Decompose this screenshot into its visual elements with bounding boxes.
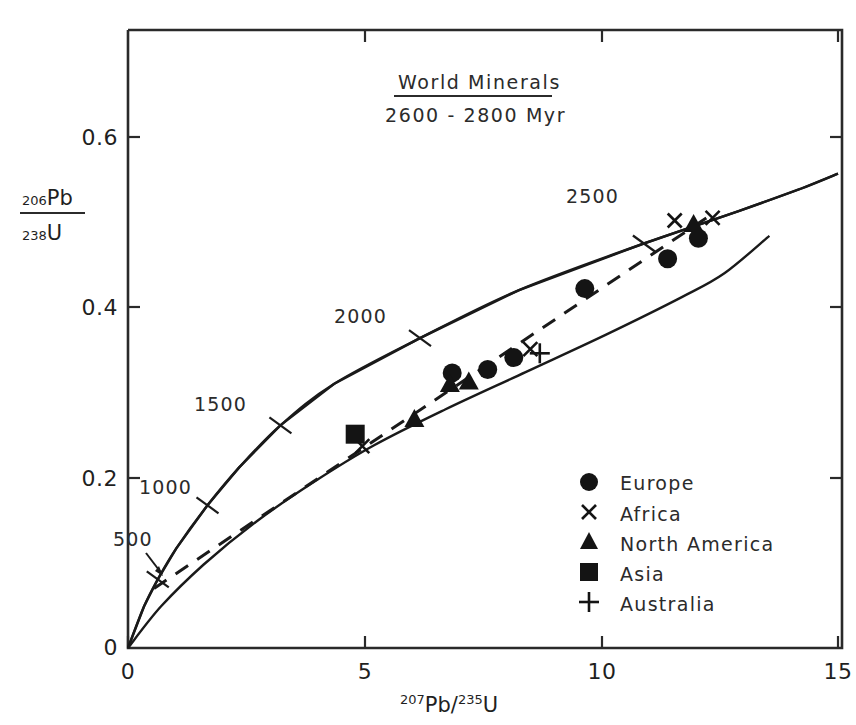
- data-point: [658, 249, 677, 268]
- y-tick-label-0: 0: [104, 635, 119, 660]
- y-tick-label-0p2: 0.2: [82, 466, 119, 491]
- age-label-500: 500: [113, 528, 153, 550]
- legend-label-europe: Europe: [620, 472, 695, 494]
- y-axis-denominator-superscript: 238: [22, 228, 47, 243]
- series-asia-markers: [346, 425, 365, 444]
- data-point: [575, 279, 594, 298]
- chart-figure: 0 5 10 15 0 0.2 0.4 0.6 206Pb 238U 207Pb…: [0, 0, 856, 725]
- x-axis-mid-pb: Pb/: [425, 693, 459, 717]
- legend-label-asia: Asia: [620, 563, 665, 585]
- concordia-diagram-svg: 0 5 10 15 0 0.2 0.4 0.6 206Pb 238U 207Pb…: [0, 0, 856, 725]
- x-axis-tail-u: U: [483, 693, 498, 717]
- age-label-1000: 1000: [139, 476, 192, 498]
- chart-title: World Minerals: [398, 71, 561, 93]
- x-axis-sup-207: 207: [400, 692, 425, 707]
- y-tick-label-0p6: 0.6: [82, 125, 119, 150]
- y-axis-denominator-base: U: [47, 221, 62, 245]
- y-tick-label-0p4: 0.4: [82, 295, 119, 320]
- legend-label-north-america: North America: [620, 533, 774, 555]
- chart-subtitle: 2600 - 2800 Myr: [385, 104, 566, 126]
- legend-marker-square-icon: [580, 563, 598, 581]
- x-axis-sup-235: 235: [458, 692, 483, 707]
- x-tick-label-5: 5: [358, 659, 373, 684]
- x-tick-label-15: 15: [824, 659, 853, 684]
- age-label-2500: 2500: [566, 185, 619, 207]
- data-point: [478, 360, 497, 379]
- age-label-2000: 2000: [334, 305, 387, 327]
- y-axis-numerator-superscript: 206: [22, 193, 47, 208]
- legend-marker-circle-icon: [580, 473, 598, 491]
- x-tick-label-10: 10: [588, 659, 617, 684]
- y-axis-numerator-base: Pb: [47, 186, 73, 210]
- data-point: [504, 348, 523, 367]
- x-tick-label-0: 0: [121, 659, 136, 684]
- data-point: [346, 425, 365, 444]
- age-label-1500: 1500: [194, 393, 247, 415]
- legend-label-australia: Australia: [620, 593, 716, 615]
- legend-label-africa: Africa: [620, 503, 682, 525]
